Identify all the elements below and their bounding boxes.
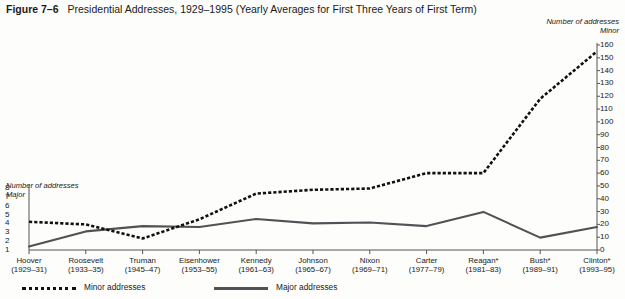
right-axis-tick-label: 80 [600, 144, 622, 152]
right-axis-tick-label: 90 [600, 131, 622, 139]
right-axis-tick-label: 130 [600, 79, 622, 87]
legend-label-minor: Minor addresses [84, 282, 145, 292]
right-axis-tick-label: 150 [600, 54, 622, 62]
left-axis-tick-label: 6 [5, 202, 17, 210]
minor-addresses-line [29, 51, 597, 238]
chart-plot-area [0, 0, 625, 299]
right-axis-tick-label: 110 [600, 105, 622, 113]
left-axis-tick-label: 4 [5, 219, 17, 227]
left-axis-tick-label: 5 [5, 211, 17, 219]
x-axis-president-name: Clinton* [555, 256, 625, 265]
x-axis-category-label: Clinton*(1993–95) [555, 256, 625, 275]
right-axis-tick-label: 10 [600, 233, 622, 241]
right-axis-tick-label: 20 [600, 220, 622, 228]
minor-series-swatch-icon [22, 287, 76, 290]
chart-svg [0, 0, 625, 299]
right-axis-tick-label: 50 [600, 182, 622, 190]
right-axis-tick-label: 100 [600, 118, 622, 126]
right-axis-tick-label: 60 [600, 169, 622, 177]
left-axis-tick-label: 3 [5, 228, 17, 236]
left-axis-tick-label: 8 [5, 184, 17, 192]
right-axis-tick-label: 120 [600, 92, 622, 100]
x-axis-president-years: (1993–95) [555, 265, 625, 274]
chart-legend: Minor addresses Major addresses [22, 283, 442, 297]
major-addresses-line [29, 212, 597, 247]
right-axis-tick-label: 70 [600, 156, 622, 164]
right-axis-tick-label: 0 [600, 246, 622, 254]
left-axis-tick-label: 2 [5, 237, 17, 245]
right-axis-tick-label: 160 [600, 41, 622, 49]
right-axis-tick-label: 30 [600, 208, 622, 216]
right-axis-tick-label: 140 [600, 67, 622, 75]
major-series-swatch-icon [214, 287, 268, 290]
legend-label-major: Major addresses [276, 282, 337, 292]
left-axis-tick-label: 1 [5, 246, 17, 254]
right-axis-tick-label: 40 [600, 195, 622, 203]
left-axis-tick-label: 7 [5, 193, 17, 201]
